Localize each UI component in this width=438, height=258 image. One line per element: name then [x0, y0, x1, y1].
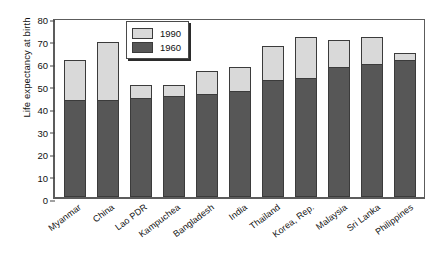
x-axis-label: Malaysia	[314, 202, 349, 232]
y-axis-title: Life expectancy at birth	[21, 0, 32, 148]
x-axis-label: Myanmar	[46, 202, 83, 233]
bar	[361, 37, 383, 197]
bar-segment-1990	[262, 46, 284, 80]
bar	[163, 85, 185, 198]
bar-segment-1960	[163, 96, 185, 197]
y-axis-tick-80: 80	[37, 15, 55, 26]
chart-legend: 1990 1960	[126, 21, 189, 59]
bar-segment-1990	[394, 53, 416, 60]
y-axis-tick-70: 70	[37, 37, 55, 48]
bar	[328, 40, 350, 198]
bar-segment-1960	[262, 80, 284, 197]
y-axis-tick-0: 0	[43, 195, 55, 206]
bar-segment-1960	[361, 64, 383, 197]
legend-swatch-1960	[132, 42, 153, 53]
bar	[295, 37, 317, 197]
legend-swatch-1990	[132, 28, 153, 39]
bar	[196, 71, 218, 197]
legend-item-1990: 1990	[132, 26, 181, 40]
x-axis-label: India	[227, 202, 249, 222]
bar	[229, 67, 251, 198]
bar	[394, 53, 416, 197]
life-expectancy-bar-chart: Life expectancy at birth 010203040506070…	[0, 0, 438, 258]
y-axis-tick-20: 20	[37, 150, 55, 161]
bar-segment-1960	[97, 100, 119, 197]
bar	[130, 85, 152, 198]
y-axis-tick-50: 50	[37, 82, 55, 93]
bar-segment-1960	[229, 91, 251, 197]
bar-segment-1960	[394, 60, 416, 197]
y-axis-tick-60: 60	[37, 60, 55, 71]
legend-label-1990: 1990	[160, 28, 181, 39]
bar-segment-1990	[361, 37, 383, 64]
legend-label-1960: 1960	[160, 42, 181, 53]
bar-segment-1990	[328, 40, 350, 67]
bar-segment-1960	[295, 78, 317, 197]
bar-segment-1990	[229, 67, 251, 92]
bar-segment-1960	[64, 100, 86, 197]
y-axis-tick-30: 30	[37, 127, 55, 138]
bar	[262, 46, 284, 197]
bar-group	[55, 20, 424, 197]
bar-segment-1990	[97, 42, 119, 101]
y-axis-tick-40: 40	[37, 105, 55, 116]
bar	[97, 42, 119, 197]
y-axis-tick-10: 10	[37, 172, 55, 183]
plot-area: 01020304050607080	[53, 19, 425, 199]
bar-segment-1960	[328, 67, 350, 198]
x-axis-label: China	[91, 202, 116, 224]
bar-segment-1990	[163, 85, 185, 96]
legend-item-1960: 1960	[132, 40, 181, 54]
bar	[64, 60, 86, 197]
bar-segment-1990	[295, 37, 317, 78]
bar-segment-1990	[196, 71, 218, 94]
bar-segment-1990	[64, 60, 86, 101]
bar-segment-1960	[196, 94, 218, 198]
bar-segment-1990	[130, 85, 152, 99]
bar-segment-1960	[130, 98, 152, 197]
